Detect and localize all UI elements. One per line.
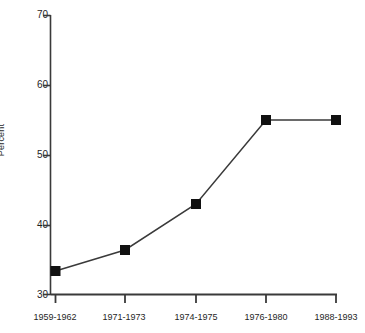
data-line-percent	[56, 120, 337, 271]
x-axis	[51, 295, 338, 304]
line-chart: Percent 70 60 50 40 30 1959-1962 1971-19…	[0, 0, 365, 333]
plot-area	[0, 0, 365, 333]
data-point-marker	[191, 199, 201, 209]
data-point-marker	[261, 115, 271, 125]
data-point-marker	[51, 266, 61, 276]
data-point-marker	[120, 245, 130, 255]
y-axis	[43, 15, 51, 295]
data-point-marker	[331, 115, 341, 125]
